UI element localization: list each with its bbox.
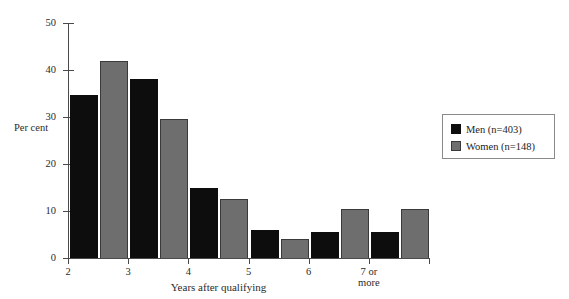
legend-entry-men: Men (n=403)	[451, 121, 554, 137]
y-tick	[63, 23, 74, 24]
bar-women-5	[401, 209, 429, 258]
x-axis-title: Years after qualifying	[0, 281, 569, 293]
bar-men-2	[190, 188, 218, 259]
bar-men-3	[251, 230, 279, 258]
x-tick	[188, 258, 189, 264]
plot-area	[68, 23, 429, 258]
legend: Men (n=403) Women (n=148)	[442, 114, 555, 159]
legend-label-men: Men (n=403)	[466, 124, 522, 135]
bar-men-4	[311, 232, 339, 258]
y-tick-label: 30	[16, 112, 56, 123]
chart-figure: 01020304050 234567 or more Per cent Year…	[0, 0, 569, 299]
x-tick-label: 4	[186, 266, 191, 277]
bar-men-1	[130, 79, 158, 258]
y-tick-label: 50	[16, 18, 56, 29]
bar-women-4	[341, 209, 369, 258]
y-axis-title: Per cent	[14, 122, 48, 133]
x-tick-label: 2	[65, 266, 70, 277]
bar-men-5	[371, 232, 399, 258]
bar-women-2	[220, 199, 248, 258]
y-tick-label: 40	[16, 65, 56, 76]
x-tick	[249, 258, 250, 264]
x-tick	[309, 258, 310, 264]
bar-men-0	[70, 95, 98, 258]
y-tick-label: 0	[16, 253, 56, 264]
x-tick	[429, 258, 430, 264]
y-tick-label: 10	[16, 206, 56, 217]
x-tick	[369, 258, 370, 264]
legend-label-women: Women (n=148)	[466, 141, 535, 152]
legend-swatch-women-icon	[451, 141, 461, 151]
x-tick	[68, 258, 69, 264]
bar-women-3	[281, 239, 309, 258]
x-axis-title-text: Years after qualifying	[171, 281, 266, 293]
x-tick-label: 3	[126, 266, 131, 277]
x-tick-label: 5	[246, 266, 251, 277]
x-tick	[128, 258, 129, 264]
legend-swatch-men-icon	[451, 124, 461, 134]
y-tick	[63, 70, 74, 71]
bar-women-0	[100, 61, 128, 258]
bar-women-1	[160, 119, 188, 258]
y-tick-label: 20	[16, 159, 56, 170]
x-tick-label: 6	[306, 266, 311, 277]
legend-entry-women: Women (n=148)	[451, 138, 554, 154]
